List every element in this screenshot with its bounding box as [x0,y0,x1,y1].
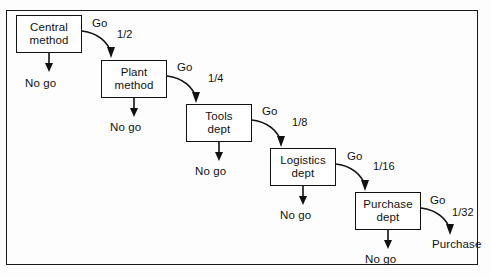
nogo-label-nogo-5: No go [365,253,396,266]
probability-label-frac-3: 1/8 [292,116,308,129]
diagram-canvas: CentralmethodPlantmethodToolsdeptLogisti… [0,0,491,279]
node-label-line1: Plant [121,66,148,80]
node-label-line1: Central [30,21,68,35]
node-tools-dept[interactable]: Toolsdept [186,104,252,142]
node-central-method[interactable]: Centralmethod [16,15,82,53]
probability-label-frac-4: 1/16 [373,160,395,173]
nogo-label-nogo-2: No go [110,121,141,134]
node-label-line2: dept [377,211,400,225]
node-purchase-dept[interactable]: Purchasedept [355,192,421,230]
nogo-label-nogo-3: No go [195,165,226,178]
nogo-label-nogo-4: No go [280,209,311,222]
node-label-line2: dept [292,167,315,181]
probability-label-frac-5: 1/32 [452,206,474,219]
node-label-line2: dept [208,123,231,137]
go-label-go-2: Go [177,61,193,74]
terminal-label-purchase: Purchase [432,238,481,251]
go-label-go-5: Go [430,194,446,207]
probability-label-frac-2: 1/4 [208,72,224,85]
node-logistics-dept[interactable]: Logisticsdept [270,148,336,186]
node-label-line1: Tools [205,110,232,124]
node-label-line2: method [115,79,154,93]
probability-label-frac-1: 1/2 [117,28,133,41]
node-label-line1: Logistics [280,154,326,168]
go-label-go-4: Go [347,150,363,163]
nogo-label-nogo-1: No go [25,77,56,90]
node-label-line1: Purchase [363,198,412,212]
go-label-go-1: Go [92,17,108,30]
go-label-go-3: Go [262,105,278,118]
node-plant-method[interactable]: Plantmethod [101,60,167,98]
node-label-line2: method [30,34,69,48]
